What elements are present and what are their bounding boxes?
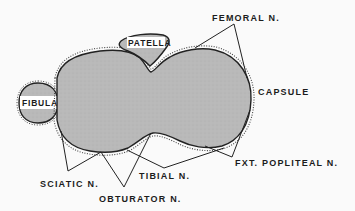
fibula-label: FIBULA [22, 98, 58, 108]
patella-label: PATELLA [128, 38, 172, 48]
obturator-nerve-label: OBTURATOR N. [99, 194, 182, 204]
capsule-label: CAPSULE [258, 87, 309, 97]
tibial-nerve-label: TIBIAL N. [139, 171, 190, 181]
knee-capsule-diagram: FIBULA PATELLA FEMORAL N. CAPSULE FXT. P… [0, 0, 355, 211]
sciatic-nerve-label: SCIATIC N. [40, 179, 99, 189]
femoral-nerve-label: FEMORAL N. [212, 13, 280, 23]
ext-popliteal-nerve-label: FXT. POPLITEAL N. [235, 158, 338, 168]
